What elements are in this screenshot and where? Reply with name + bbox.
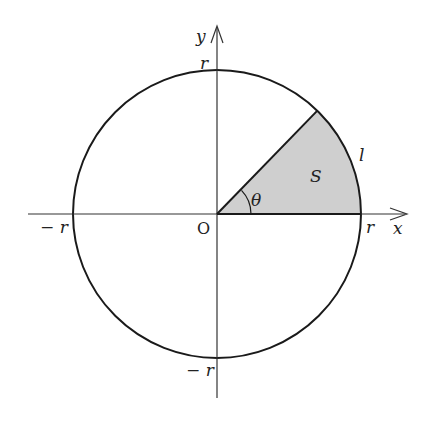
angle-label: θ (251, 190, 261, 210)
arc-length-label: l (359, 145, 364, 165)
r-right-label: r (366, 217, 375, 237)
sector-diagram: y r x r − r − r O S l θ (0, 0, 429, 421)
origin-label: O (197, 219, 210, 238)
sector-area (217, 110, 361, 214)
x-axis-label: x (393, 218, 403, 238)
neg-r-bottom-label: − r (186, 360, 215, 380)
neg-r-left-label: − r (40, 217, 69, 237)
area-label: S (310, 166, 322, 186)
y-axis-label: y (195, 26, 206, 46)
r-top-label: r (200, 53, 209, 73)
diagram-canvas: y r x r − r − r O S l θ (0, 0, 429, 421)
